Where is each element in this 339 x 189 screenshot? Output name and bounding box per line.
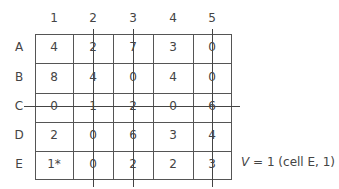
grid-line <box>73 34 74 180</box>
matrix-cell: 4 <box>39 40 69 54</box>
value-text: = 1 (cell E, 1) <box>249 155 335 169</box>
column-header-5: 5 <box>202 11 222 25</box>
column-header-4: 4 <box>163 11 183 25</box>
row-header-d: D <box>12 128 26 142</box>
grid-line <box>153 34 154 180</box>
row-header-e: E <box>12 157 26 171</box>
strike-column-3 <box>133 29 134 187</box>
strike-column-5 <box>212 29 213 187</box>
row-header-b: B <box>12 70 26 84</box>
column-header-3: 3 <box>123 11 143 25</box>
game-value-annotation: V = 1 (cell E, 1) <box>241 155 335 169</box>
grid-line <box>113 34 114 180</box>
column-header-1: 1 <box>44 11 64 25</box>
grid-line <box>193 34 194 180</box>
value-variable: V <box>241 155 249 169</box>
strike-column-2 <box>93 29 94 187</box>
matrix-cell: 4 <box>158 70 188 84</box>
matrix-cell: 3 <box>158 128 188 142</box>
row-header-a: A <box>12 40 26 54</box>
matrix-cell: 3 <box>158 40 188 54</box>
column-header-2: 2 <box>83 11 103 25</box>
matrix-cell: 2 <box>158 157 188 171</box>
matrix-cell-saddle: 1* <box>39 157 69 171</box>
strike-row-c <box>24 106 240 107</box>
matrix-cell: 2 <box>39 128 69 142</box>
matrix-cell: 8 <box>39 70 69 84</box>
